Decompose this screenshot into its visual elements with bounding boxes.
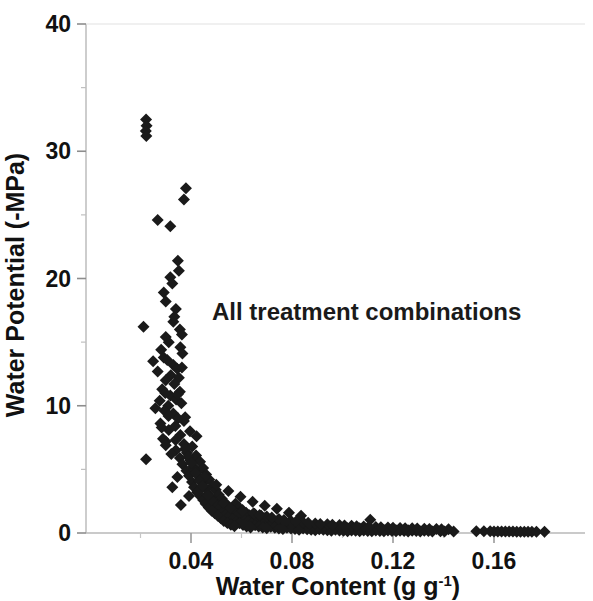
x-tick-label: 0.16 xyxy=(472,548,517,574)
y-tick-label: 30 xyxy=(45,138,71,164)
x-tick-label: 0.08 xyxy=(270,548,315,574)
chart-canvas: 0.040.080.120.16 010203040 All treatment… xyxy=(0,0,593,601)
scatter-plot-figure: 0.040.080.120.16 010203040 All treatment… xyxy=(0,0,593,601)
chart-annotation: All treatment combinations xyxy=(212,298,521,325)
y-tick-label: 10 xyxy=(45,393,71,419)
y-tick-label: 40 xyxy=(45,11,71,37)
x-tick-label: 0.12 xyxy=(371,548,416,574)
x-tick-label: 0.04 xyxy=(169,548,214,574)
x-axis-title: Water Content (g g-1) xyxy=(216,572,460,600)
y-tick-label: 20 xyxy=(45,266,71,292)
y-tick-label: 0 xyxy=(58,520,71,546)
y-axis-title: Water Potential (-MPa) xyxy=(1,153,29,417)
